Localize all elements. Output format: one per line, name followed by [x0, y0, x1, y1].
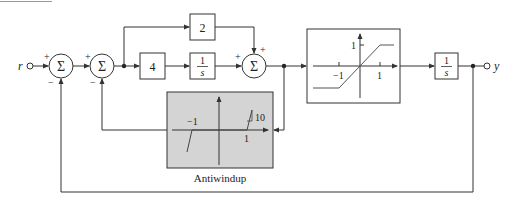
- integral-gain-block: 4: [140, 53, 165, 79]
- saturation-block: 1 −1 1: [307, 29, 400, 103]
- wire-proportional-sum3: [215, 27, 254, 53]
- input-r: r: [18, 59, 33, 73]
- tf-denominator: s: [201, 67, 205, 78]
- sigma-symbol: Σ: [57, 59, 65, 74]
- input-terminal: [27, 63, 33, 69]
- sign-plus: +: [235, 51, 241, 62]
- sign-plus: +: [260, 44, 266, 55]
- sigma-symbol: Σ: [250, 59, 258, 74]
- proportional-gain-block: 2: [190, 14, 215, 40]
- sum-junction-3: Σ + +: [235, 44, 266, 78]
- input-label: r: [18, 59, 23, 73]
- sigma-symbol: Σ: [98, 59, 106, 74]
- wire-to-antiwindup: [274, 66, 284, 130]
- sign-plus: +: [44, 51, 50, 62]
- xtick-pos-label: 1: [244, 133, 249, 144]
- xtick-neg-label: −1: [187, 116, 198, 127]
- gain-label: 2: [200, 21, 206, 35]
- antiwindup-caption: Antiwindup: [194, 172, 247, 184]
- sign-plus: +: [85, 51, 91, 62]
- integrator-block: 1 s: [190, 53, 215, 79]
- output-label: y: [493, 59, 500, 73]
- ytick-label: 1: [351, 40, 356, 51]
- plant-block: 1 s: [435, 53, 458, 79]
- sign-minus: −: [90, 77, 96, 88]
- antiwindup-block: −1 1 10: [167, 92, 273, 168]
- xtick-pos-label: 1: [377, 70, 382, 81]
- xtick-neg-label: −1: [333, 70, 344, 81]
- block-diagram: r Σ + − Σ + − 2 4 1 s Σ: [0, 0, 515, 206]
- slope-label: 10: [255, 112, 265, 123]
- tf-numerator: 1: [200, 55, 205, 66]
- tf-numerator: 1: [444, 55, 449, 66]
- output-y: y: [484, 59, 500, 73]
- output-terminal: [484, 63, 490, 69]
- sum-junction-2: Σ + −: [85, 51, 114, 88]
- sum-junction-1: Σ + −: [44, 51, 73, 88]
- wire-antiwindup-sum2: [102, 79, 167, 130]
- tf-denominator: s: [445, 67, 449, 78]
- gain-label: 4: [150, 60, 156, 74]
- sign-minus: −: [48, 77, 54, 88]
